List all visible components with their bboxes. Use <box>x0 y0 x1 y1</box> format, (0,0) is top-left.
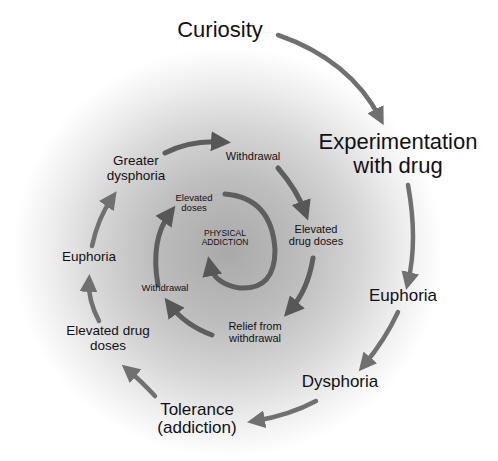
arrow-tolerance-to-elevated <box>128 370 155 396</box>
spiral-arrows <box>0 0 498 461</box>
label-physical-addiction-line2: ADDICTION <box>202 238 249 247</box>
label-experimentation-with-drug: Experimentation with drug <box>319 130 478 178</box>
label-euphoria-middle: Euphoria <box>62 250 116 265</box>
arrow-withdrawal-to-elevated <box>278 168 305 212</box>
arrow-relief-to-withdrawal <box>170 305 212 335</box>
label-experimentation-line2: with drug <box>319 154 478 178</box>
addiction-spiral-diagram: Curiosity Experimentation with drug Euph… <box>0 0 498 461</box>
arrow-euphoria-to-dysphoria <box>364 312 398 365</box>
arrow-elevated-to-euphoria <box>89 282 99 321</box>
label-withdrawal-middle: Withdrawal <box>226 151 280 163</box>
label-greater-dysphoria: Greater dysphoria <box>107 154 166 183</box>
label-curiosity: Curiosity <box>177 18 263 42</box>
label-elevated-doses-inner: Elevated doses <box>176 193 213 214</box>
label-euphoria-outer: Euphoria <box>369 287 437 305</box>
label-physical-addiction: PHYSICAL ADDICTION <box>202 229 249 247</box>
label-greater-dysphoria-line1: Greater <box>107 154 166 169</box>
arrow-euphoria-to-greater-dysphoria <box>92 198 112 246</box>
label-greater-dysphoria-line2: dysphoria <box>107 169 166 184</box>
label-elevated-drug-doses-middle: Elevated drug doses <box>66 324 149 353</box>
label-relief-line2: withdrawal <box>228 333 281 345</box>
label-withdrawal-inner: Withdrawal <box>142 283 189 293</box>
arrow-elevated-to-relief <box>290 258 313 310</box>
arrow-withdrawal-to-elevated-doses <box>156 213 170 285</box>
label-elevated-drug-doses-right: Elevated drug doses <box>289 224 343 248</box>
label-tolerance-line2: (addiction) <box>157 419 236 437</box>
label-tolerance-line1: Tolerance <box>157 401 236 419</box>
label-elevated-doses-line2: doses <box>176 203 213 213</box>
label-elevated-drug-doses-line1: Elevated drug <box>66 324 149 339</box>
label-experimentation-line1: Experimentation <box>319 130 478 154</box>
arrow-curiosity-to-experimentation <box>278 35 380 118</box>
label-relief-from-withdrawal: Relief from withdrawal <box>228 321 281 345</box>
arrow-dysphoria-to-tolerance <box>255 401 316 421</box>
label-dysphoria-outer: Dysphoria <box>302 373 379 391</box>
label-tolerance-addiction: Tolerance (addiction) <box>157 401 236 438</box>
label-elevated-line2: drug doses <box>289 236 343 248</box>
arrow-greater-dysphoria-to-withdrawal <box>165 142 222 153</box>
arrow-experimentation-to-euphoria <box>408 185 413 282</box>
label-elevated-drug-doses-line2: doses <box>66 339 149 354</box>
